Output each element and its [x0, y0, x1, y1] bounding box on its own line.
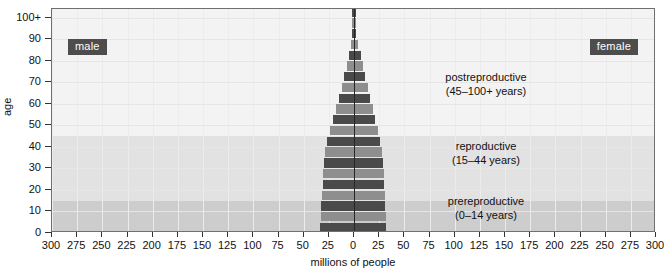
y-tick-label: 30 [29, 162, 41, 173]
x-tick [378, 232, 379, 237]
bar-male-70-74 [344, 72, 354, 81]
bar-male-65-69 [342, 83, 354, 92]
bar-female-25-29 [354, 169, 384, 178]
vertical-gridline [581, 9, 582, 231]
x-tick-label: 200 [545, 239, 563, 251]
y-axis: age 100+9080706050403020100 [0, 0, 51, 275]
x-tick [177, 232, 178, 237]
x-tick-label: 225 [117, 239, 135, 251]
x-tick [429, 232, 430, 237]
vertical-gridline [52, 9, 53, 231]
vertical-gridline [128, 9, 129, 231]
y-tick-label: 40 [29, 140, 41, 151]
vertical-gridline [404, 9, 405, 231]
vertical-gridline [430, 9, 431, 231]
bar-female-10-14 [354, 201, 385, 210]
bar-female-60-64 [354, 94, 370, 103]
x-tick-label: 50 [297, 239, 309, 251]
vertical-gridline [178, 9, 179, 231]
bar-female-15-19 [354, 191, 385, 200]
x-tick-label: 175 [168, 239, 186, 251]
bar-male-50-54 [333, 115, 354, 124]
x-tick [227, 232, 228, 237]
annotation-reproductive-line1: reproductive [456, 140, 517, 152]
annotation-postreproductive-line2: (45–100+ years) [445, 85, 526, 99]
x-tick [630, 232, 631, 237]
bar-female-80-84 [354, 51, 361, 60]
x-tick [303, 232, 304, 237]
x-tick-label: 150 [495, 239, 513, 251]
x-tick [328, 232, 329, 237]
annotation-postreproductive: postreproductive (45–100+ years) [445, 71, 526, 99]
bar-male-0-4 [320, 223, 354, 232]
y-tick-label: 90 [29, 33, 41, 44]
vertical-gridline [304, 9, 305, 231]
population-pyramid-figure: age 100+9080706050403020100 male female … [0, 0, 669, 275]
y-axis-title: age [1, 98, 13, 116]
x-tick [454, 232, 455, 237]
bar-female-30-34 [354, 158, 383, 167]
bar-male-60-64 [339, 94, 354, 103]
x-axis: 3002752502252001751501251007550250255075… [51, 232, 655, 275]
x-tick [51, 232, 52, 237]
y-tick-label: 100+ [16, 11, 41, 22]
x-tick [554, 232, 555, 237]
bar-male-15-19 [322, 191, 354, 200]
x-tick [353, 232, 354, 237]
bar-female-50-54 [354, 115, 375, 124]
x-tick-label: 275 [621, 239, 639, 251]
vertical-gridline [153, 9, 154, 231]
bar-male-45-49 [330, 126, 354, 135]
x-tick-label: 300 [42, 239, 60, 251]
vertical-gridline [228, 9, 229, 231]
annotation-prereproductive: prereproductive (0–14 years) [448, 195, 524, 223]
x-tick-label: 25 [322, 239, 334, 251]
x-tick-label: 75 [271, 239, 283, 251]
x-tick-label: 225 [570, 239, 588, 251]
vertical-gridline [555, 9, 556, 231]
bar-female-65-69 [354, 83, 368, 92]
x-tick [580, 232, 581, 237]
y-tick-label: 50 [29, 119, 41, 130]
x-tick-label: 100 [444, 239, 462, 251]
vertical-gridline [279, 9, 280, 231]
x-tick [127, 232, 128, 237]
vertical-gridline [530, 9, 531, 231]
x-tick [479, 232, 480, 237]
bar-female-20-24 [354, 180, 384, 189]
x-tick-label: 0 [350, 239, 356, 251]
y-tick-label: 20 [29, 183, 41, 194]
x-tick-label: 275 [67, 239, 85, 251]
y-tick-label: 10 [29, 205, 41, 216]
x-tick [76, 232, 77, 237]
x-tick-label: 150 [193, 239, 211, 251]
x-tick [278, 232, 279, 237]
bar-male-30-34 [324, 158, 354, 167]
bar-male-20-24 [323, 180, 354, 189]
vertical-gridline [203, 9, 204, 231]
x-axis-title: millions of people [311, 256, 396, 268]
bar-female-0-4 [354, 223, 386, 232]
x-tick-label: 125 [470, 239, 488, 251]
x-tick-label: 200 [142, 239, 160, 251]
legend-tag-male: male [68, 39, 107, 55]
x-tick-label: 175 [520, 239, 538, 251]
bar-female-55-59 [354, 104, 373, 113]
annotation-prereproductive-line2: (0–14 years) [448, 209, 524, 223]
x-tick-label: 75 [422, 239, 434, 251]
legend-tag-female: female [590, 39, 638, 55]
bar-female-35-39 [354, 147, 382, 156]
annotation-reproductive-line2: (15–44 years) [452, 154, 520, 168]
x-tick [101, 232, 102, 237]
annotation-prereproductive-line1: prereproductive [448, 195, 524, 207]
bar-female-75-79 [354, 61, 363, 70]
bar-male-75-79 [347, 61, 354, 70]
annotation-postreproductive-line1: postreproductive [445, 71, 526, 83]
bar-male-35-39 [325, 147, 354, 156]
x-tick [252, 232, 253, 237]
center-axis-line [354, 9, 355, 231]
bar-male-40-44 [327, 137, 354, 146]
x-tick [403, 232, 404, 237]
x-tick-label: 100 [243, 239, 261, 251]
bar-female-5-9 [354, 212, 386, 221]
